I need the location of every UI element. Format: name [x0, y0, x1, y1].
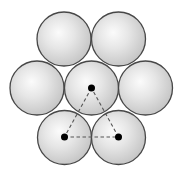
center-dot-bottom-left — [61, 134, 68, 141]
hex-packing-diagram — [0, 0, 182, 175]
sphere-top-right — [92, 12, 146, 66]
center-dot-bottom-right — [115, 134, 122, 141]
sphere-middle-right — [119, 61, 173, 115]
sphere-top-left — [37, 12, 91, 66]
sphere-middle-left — [10, 61, 64, 115]
center-dot-center — [88, 85, 95, 92]
